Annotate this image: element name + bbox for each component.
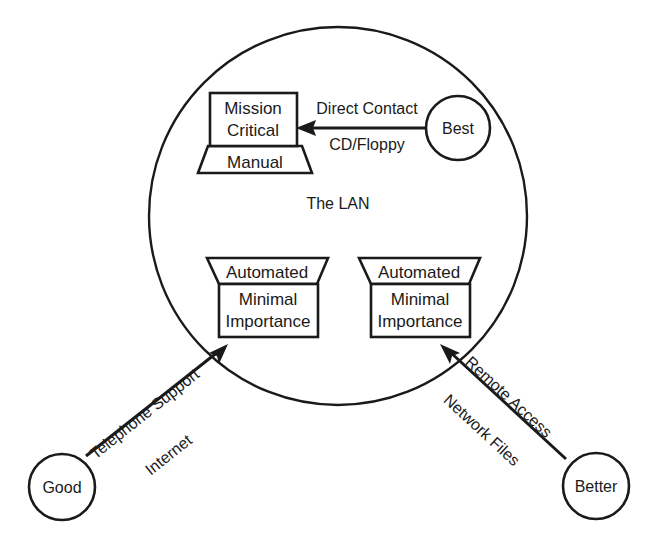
- terminal-line1-right: Minimal: [391, 290, 450, 309]
- rating-node-best: Best: [426, 96, 490, 160]
- arrow-head-better: [440, 344, 460, 364]
- connection-good-to-minimal-left: Telephone Support Internet: [86, 344, 228, 478]
- edge-label-good-line2: Internet: [142, 431, 195, 478]
- edge-label-best-line1: Direct Contact: [316, 100, 418, 117]
- rating-node-good: Good: [29, 454, 95, 520]
- asset-mission-critical: Mission Critical Manual: [198, 93, 312, 173]
- rating-node-better: Better: [563, 453, 629, 519]
- better-label: Better: [575, 478, 618, 495]
- arrow-head-best: [296, 120, 316, 136]
- good-label: Good: [42, 479, 81, 496]
- asset-minimal-importance-right: Automated Minimal Importance: [359, 258, 480, 337]
- connection-best-to-mission-critical: Direct Contact CD/Floppy: [296, 100, 426, 153]
- mission-critical-line2: Critical: [227, 121, 279, 140]
- asset-minimal-importance-left: Automated Minimal Importance: [207, 258, 328, 337]
- best-label: Best: [442, 120, 475, 137]
- arrow-head-good: [209, 344, 228, 364]
- lan-boundary-circle: [149, 27, 527, 405]
- lan-support-diagram: The LAN Mission Critical Manual Automate…: [0, 0, 650, 548]
- laptop-base-label: Manual: [227, 153, 283, 172]
- terminal-cap-label-left: Automated: [226, 263, 308, 282]
- lan-caption: The LAN: [306, 195, 369, 212]
- edge-label-best-line2: CD/Floppy: [329, 136, 405, 153]
- diagram-canvas: The LAN Mission Critical Manual Automate…: [0, 0, 650, 548]
- terminal-line1-left: Minimal: [239, 290, 298, 309]
- terminal-line2-left: Importance: [225, 312, 310, 331]
- terminal-cap-label-right: Automated: [378, 263, 460, 282]
- mission-critical-line1: Mission: [224, 99, 282, 118]
- terminal-line2-right: Importance: [377, 312, 462, 331]
